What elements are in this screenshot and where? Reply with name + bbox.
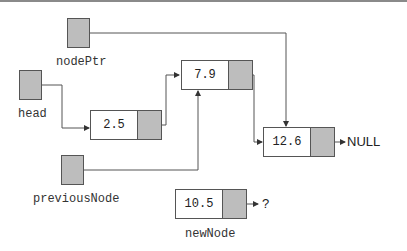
- head-pointer-box: [19, 70, 42, 100]
- nodeptr-pointer-box: [67, 18, 90, 48]
- new-node: 10.5: [175, 189, 247, 219]
- newnode-label: newNode: [185, 227, 235, 241]
- node-next-pointer: [138, 111, 161, 139]
- previousnode-label: previousNode: [33, 192, 119, 206]
- list-node: 7.9: [181, 60, 253, 90]
- node-next-pointer: [311, 128, 334, 156]
- new-node-value: 10.5: [176, 190, 223, 218]
- node-value: 7.9: [182, 61, 229, 89]
- new-node-next-pointer: [223, 190, 246, 218]
- nodeptr-label: nodePtr: [56, 55, 106, 69]
- previousnode-pointer-box: [61, 155, 84, 185]
- list-node: 2.5: [90, 110, 162, 140]
- node-next-pointer: [229, 61, 252, 89]
- null-terminal: NULL: [347, 134, 380, 149]
- head-label: head: [18, 107, 47, 121]
- node-value: 12.6: [264, 128, 311, 156]
- unknown-terminal: ?: [262, 196, 269, 211]
- node-value: 2.5: [91, 111, 138, 139]
- list-node: 12.6: [263, 127, 335, 157]
